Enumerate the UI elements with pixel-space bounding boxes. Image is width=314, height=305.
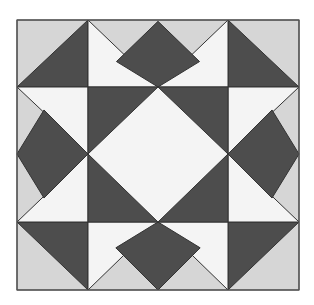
quilt-block [0, 0, 314, 305]
quilt-shapes [17, 20, 299, 290]
